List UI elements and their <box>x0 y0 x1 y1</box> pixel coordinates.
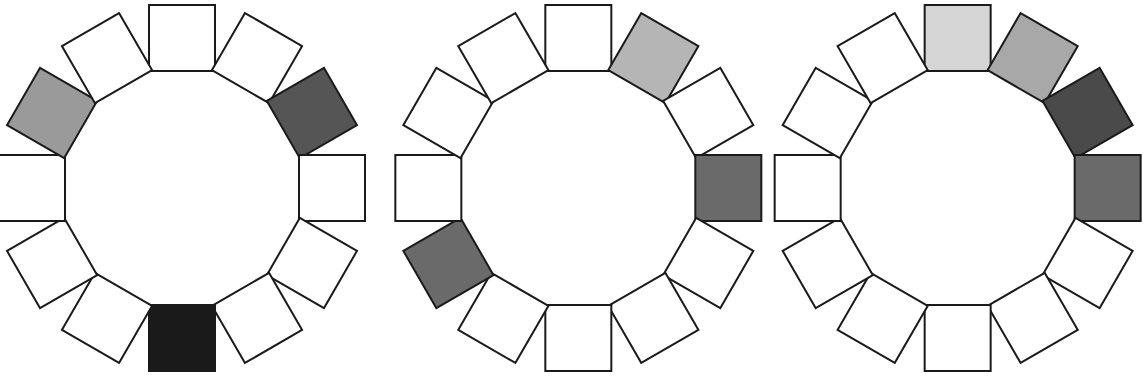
ring-canvas <box>0 0 382 381</box>
ring-1-square-3-empty <box>299 155 365 221</box>
square-ring-1 <box>0 0 382 381</box>
ring-3-square-6-empty <box>925 305 991 371</box>
figure-root <box>0 0 1145 381</box>
ring-1-square-0-empty <box>149 5 215 71</box>
ring-canvas <box>763 0 1145 381</box>
ring-2-square-3-filled <box>695 155 761 221</box>
ring-3-square-9-empty <box>775 155 841 221</box>
ring-2-square-9-empty <box>395 155 461 221</box>
ring-2-square-0-empty <box>545 5 611 71</box>
ring-3-square-3-filled <box>1075 155 1141 221</box>
ring-2-square-6-empty <box>545 305 611 371</box>
ring-3-square-0-filled <box>925 5 991 71</box>
ring-canvas <box>382 0 764 381</box>
ring-1-square-6-filled <box>149 305 215 371</box>
square-ring-3 <box>763 0 1145 381</box>
square-ring-2 <box>382 0 764 381</box>
ring-1-square-9-empty <box>0 155 65 221</box>
